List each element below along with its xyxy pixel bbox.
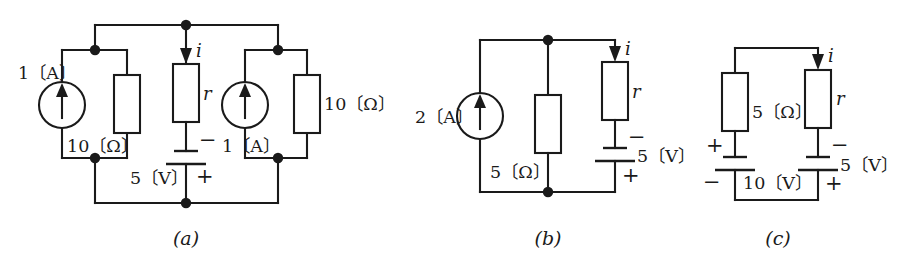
- circuit-c-current-label: i: [828, 45, 834, 66]
- circuit-a-node-left-bottom: [90, 153, 100, 163]
- circuit-a-right-resistor-label: 10〔Ω〕: [324, 94, 395, 114]
- circuit-c-right-battery-minus-sign: −: [831, 133, 849, 157]
- circuit-a-current-label: i: [196, 40, 202, 61]
- circuit-b-caption: (b): [535, 227, 562, 249]
- circuit-b-series-resistor-label: r: [632, 81, 642, 102]
- circuit-a-node-top-center: [181, 20, 191, 30]
- circuit-c-left-resistor-label: 5〔Ω〕: [752, 102, 812, 122]
- circuit-a-node-left-top: [90, 45, 100, 55]
- circuit-b-node-bottom: [543, 187, 553, 197]
- circuit-c-caption: (c): [765, 227, 790, 249]
- circuit-a-right-source-label: 1〔A〕: [222, 136, 280, 156]
- circuit-a-left-resistor-label: 10〔Ω〕: [67, 136, 138, 156]
- circuit-c-left-battery-value-label: 10〔V〕: [743, 173, 812, 193]
- circuit-a-caption: (a): [173, 227, 199, 249]
- circuit-a-current-arrowhead: [180, 48, 192, 64]
- circuit-a-node-right-bottom: [273, 153, 283, 163]
- circuit-a-battery-minus-sign: −: [199, 128, 217, 152]
- circuit-b-current-arrowhead: [609, 46, 621, 62]
- circuit-c-right-battery-value-label: 5〔V〕: [840, 155, 898, 175]
- circuit-c-left-battery-plus-sign: +: [706, 133, 724, 157]
- circuit-c-left-battery-minus-sign: −: [703, 170, 721, 194]
- circuit-c-left-resistor: [722, 73, 748, 131]
- circuit-figure: 1〔A〕 10〔Ω〕 i r − + 5〔V〕: [0, 0, 902, 263]
- circuit-b: 2〔A〕 5〔Ω〕 i r − + 5〔V〕 (b): [415, 35, 695, 249]
- circuit-b-shunt-resistor: [535, 95, 561, 153]
- circuit-a-node-bottom-center: [181, 198, 191, 208]
- circuit-b-node-top: [543, 35, 553, 45]
- circuit-c-right-resistor-label: r: [836, 88, 846, 109]
- circuit-b-shunt-resistor-label: 5〔Ω〕: [490, 162, 550, 182]
- circuit-a-middle-resistor: [173, 64, 199, 122]
- circuit-b-series-resistor: [602, 62, 628, 120]
- circuit-c-right-resistor: [805, 70, 831, 128]
- circuit-a-battery-plus-sign: +: [196, 164, 214, 188]
- circuit-c: 5〔Ω〕 + − 10〔V〕 i r − + 5〔V〕 (c): [703, 45, 898, 249]
- circuit-b-battery-value-label: 5〔V〕: [637, 146, 695, 166]
- circuit-a-right-resistor: [294, 75, 320, 133]
- circuit-b-current-label: i: [625, 38, 631, 59]
- circuit-a-battery-value-label: 5〔V〕: [130, 168, 188, 188]
- circuit-a-node-right-top: [273, 45, 283, 55]
- circuit-b-source-label: 2〔A〕: [415, 107, 473, 127]
- circuit-a-middle-resistor-label: r: [203, 83, 213, 104]
- circuit-a-left-source-label: 1〔A〕: [18, 63, 76, 83]
- circuit-a-left-resistor: [114, 75, 140, 133]
- circuit-a: 1〔A〕 10〔Ω〕 i r − + 5〔V〕: [18, 20, 395, 249]
- circuit-b-battery-plus-sign: +: [622, 163, 640, 187]
- circuit-c-current-arrowhead: [812, 54, 824, 70]
- circuit-canvas: 1〔A〕 10〔Ω〕 i r − + 5〔V〕: [0, 0, 902, 263]
